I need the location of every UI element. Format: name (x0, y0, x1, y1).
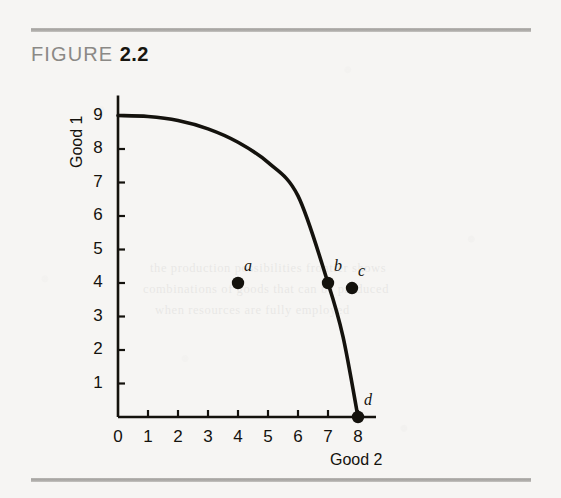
y-axis-tick-label: 6 (86, 205, 110, 225)
ppf-curve (118, 116, 358, 418)
chart-plot-area: 123456789012345678Good 2Good 1abcd (0, 0, 561, 498)
data-point-label-d: d (364, 391, 372, 409)
x-axis-tick-label: 1 (136, 427, 160, 447)
y-axis-title: Good 1 (68, 115, 86, 167)
y-axis-tick-label: 1 (86, 373, 110, 393)
y-axis-tick-label: 2 (86, 339, 110, 359)
x-axis-tick-label: 4 (226, 427, 250, 447)
x-axis-tick-label: 8 (346, 427, 370, 447)
y-axis-tick-label: 5 (86, 239, 110, 259)
x-axis-tick-label: 2 (166, 427, 190, 447)
data-point-label-b: b (334, 257, 342, 275)
x-axis-tick-label: 0 (106, 427, 130, 447)
y-axis-tick-label: 9 (86, 105, 110, 125)
x-axis-tick-label: 5 (256, 427, 280, 447)
y-axis-tick-label: 7 (86, 172, 110, 192)
data-point-label-a: a (244, 257, 252, 275)
x-axis-tick-label: 7 (316, 427, 340, 447)
chart-svg (0, 0, 561, 498)
x-axis-title: Good 2 (330, 451, 382, 469)
x-axis-tick-label: 6 (286, 427, 310, 447)
y-axis-tick-label: 4 (86, 272, 110, 292)
y-axis-tick-label: 8 (86, 138, 110, 158)
x-axis-tick-label: 3 (196, 427, 220, 447)
data-point-label-c: c (358, 262, 365, 280)
y-axis-tick-label: 3 (86, 306, 110, 326)
